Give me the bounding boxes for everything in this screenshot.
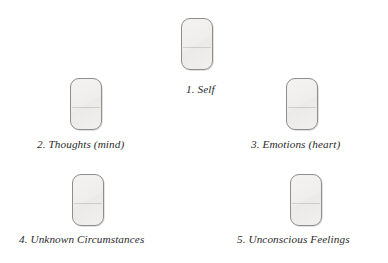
node-label-5-unconscious-feelings: 5. Unconscious Feelings xyxy=(237,233,350,246)
node-label-2-thoughts: 2. Thoughts (mind) xyxy=(37,138,124,151)
node-box-1-self xyxy=(181,18,213,70)
node-box-3-emotions xyxy=(286,78,318,130)
node-box-4-unknown-circumstances xyxy=(72,174,104,226)
node-box-5-unconscious-feelings xyxy=(290,174,322,226)
node-label-1-self: 1. Self xyxy=(186,83,215,96)
node-label-4-unknown-circumstances: 4. Unknown Circumstances xyxy=(19,233,144,246)
node-box-2-thoughts xyxy=(70,78,102,130)
node-label-3-emotions: 3. Emotions (heart) xyxy=(251,138,340,151)
figure-canvas: 1. Self 2. Thoughts (mind) 3. Emotions (… xyxy=(0,0,388,263)
